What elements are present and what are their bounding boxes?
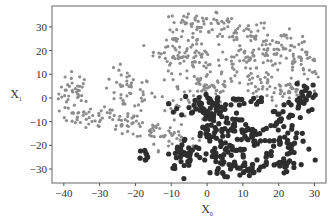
data-point — [125, 80, 128, 83]
data-point — [76, 112, 79, 115]
data-point — [241, 154, 246, 159]
data-point — [254, 102, 259, 107]
data-point — [306, 77, 309, 80]
data-point — [209, 70, 212, 73]
data-point — [214, 136, 219, 141]
data-point — [213, 86, 216, 89]
data-point — [203, 22, 206, 25]
data-point — [170, 72, 173, 75]
data-point — [171, 14, 174, 17]
data-point — [291, 62, 294, 65]
data-point — [261, 43, 264, 46]
data-point — [206, 73, 209, 76]
data-point — [216, 35, 219, 38]
data-point — [114, 128, 117, 131]
data-point — [275, 52, 278, 55]
data-point — [317, 75, 320, 78]
data-point — [204, 151, 209, 156]
y-tick-label: 30 — [36, 21, 48, 33]
data-point — [64, 89, 67, 92]
data-point — [225, 174, 230, 179]
data-point — [177, 130, 180, 133]
data-point — [233, 74, 236, 77]
data-point — [217, 59, 220, 62]
data-point — [76, 84, 79, 87]
data-point — [271, 99, 274, 102]
data-point — [281, 95, 284, 98]
data-point — [313, 59, 316, 62]
data-point — [168, 64, 171, 67]
data-point — [209, 99, 214, 104]
data-point — [133, 104, 136, 107]
data-point — [207, 170, 212, 175]
data-point — [178, 159, 183, 164]
data-point — [126, 115, 129, 118]
data-point — [284, 84, 287, 87]
data-point — [121, 132, 124, 135]
data-point — [196, 146, 201, 151]
data-point — [305, 53, 308, 56]
data-point — [211, 28, 214, 31]
data-point — [196, 100, 201, 105]
data-point — [260, 81, 263, 84]
data-point — [163, 78, 166, 81]
data-point — [296, 105, 301, 110]
data-point — [82, 114, 85, 117]
data-point — [285, 151, 290, 156]
data-point — [196, 90, 199, 93]
data-point — [238, 59, 241, 62]
data-point — [189, 110, 194, 115]
data-point — [195, 42, 198, 45]
data-point — [153, 95, 156, 98]
data-point — [259, 99, 264, 104]
data-point — [301, 101, 306, 106]
data-point — [262, 40, 265, 43]
data-point — [219, 90, 222, 93]
data-point — [265, 94, 268, 97]
data-point — [179, 142, 184, 147]
data-point — [242, 29, 245, 32]
data-point — [115, 124, 118, 127]
data-point — [285, 130, 290, 135]
data-point — [264, 160, 269, 165]
data-point — [174, 155, 179, 160]
data-point — [186, 105, 191, 110]
data-point — [300, 63, 303, 66]
data-point — [275, 104, 278, 107]
data-point — [132, 78, 135, 81]
data-point — [298, 115, 303, 120]
data-point — [215, 11, 218, 14]
data-point — [132, 121, 135, 124]
data-point — [242, 59, 245, 62]
scatter-chart: −40−30−20−100102030 −30−20−100102030 X0 … — [0, 0, 335, 223]
y-tick-label: −10 — [30, 116, 48, 128]
data-point — [193, 75, 196, 78]
data-point — [293, 57, 296, 60]
data-point — [242, 128, 247, 133]
data-point — [126, 71, 129, 74]
data-point — [232, 31, 235, 34]
data-point — [179, 139, 182, 142]
data-point — [163, 51, 166, 54]
data-point — [100, 109, 103, 112]
data-point — [266, 88, 269, 91]
data-point — [155, 126, 158, 129]
data-point — [166, 60, 169, 63]
data-point — [243, 49, 246, 52]
data-point — [235, 53, 238, 56]
data-point — [300, 93, 305, 98]
data-point — [185, 77, 188, 80]
data-point — [252, 92, 255, 95]
data-point — [288, 82, 291, 85]
data-point — [281, 156, 286, 161]
data-point — [306, 57, 309, 60]
data-point — [218, 160, 223, 165]
data-point — [302, 67, 305, 70]
data-point — [142, 93, 145, 96]
data-point — [119, 96, 122, 99]
data-point — [277, 111, 282, 116]
data-point — [247, 59, 250, 62]
data-point — [311, 82, 316, 87]
data-point — [266, 80, 269, 83]
data-point — [108, 116, 111, 119]
